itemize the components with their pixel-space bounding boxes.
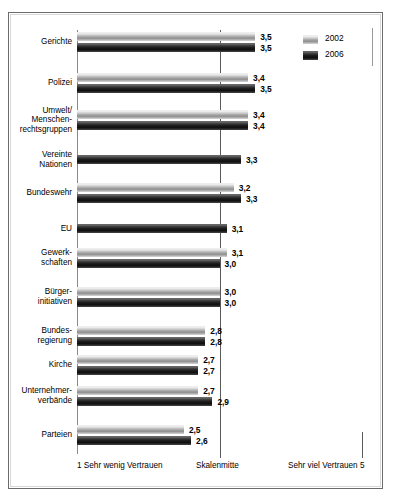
- category-label: Parteien: [0, 430, 72, 440]
- category-label: VereinteNationen: [0, 150, 72, 169]
- category-label-line: Bürger-: [0, 287, 72, 297]
- category-label-line: Polizei: [0, 78, 72, 88]
- category-label: Polizei: [0, 78, 72, 88]
- chart-row: Bundeswehr3,23,3: [0, 183, 398, 219]
- bar-value-label: 2,7: [203, 366, 215, 376]
- category-label-line: Bundes-: [0, 326, 72, 336]
- bar-value-label: 3,4: [253, 73, 265, 83]
- bar-2006: [77, 337, 205, 346]
- bar-value-label: 2,7: [203, 355, 215, 365]
- bar-value-label: 2,8: [210, 337, 222, 347]
- category-label-line: Unternehmer-: [0, 386, 72, 396]
- category-label: Umwelt/Menschen-rechtsgruppen: [0, 106, 72, 135]
- bar-2006: [77, 224, 227, 233]
- category-label-line: schaften: [0, 258, 72, 268]
- bar-value-label: 2,8: [210, 326, 222, 336]
- legend-item-2002[interactable]: 2002: [303, 32, 373, 48]
- bar-value-label: 2,7: [203, 386, 215, 396]
- category-label: Bundeswehr: [0, 188, 72, 198]
- bar-2006: [77, 155, 241, 164]
- category-label: Bürger-initiativen: [0, 287, 72, 306]
- bar-2002: [77, 32, 255, 41]
- bar-2006: [77, 43, 255, 52]
- bar-value-label: 3,3: [246, 155, 258, 165]
- category-label-line: rechtsgruppen: [0, 125, 72, 135]
- legend-item-2006[interactable]: 2006: [303, 48, 373, 64]
- bar-2002: [77, 355, 198, 364]
- bar-2002: [77, 425, 184, 434]
- category-label-line: Nationen: [0, 160, 72, 170]
- bar-value-label: 2,5: [189, 425, 201, 435]
- bar-value-label: 3,1: [232, 248, 244, 258]
- category-label: Kirche: [0, 360, 72, 370]
- chart-legend: 20022006: [303, 32, 373, 64]
- category-label: EU: [0, 224, 72, 234]
- category-label-line: Bundeswehr: [0, 188, 72, 198]
- bar-2006: [77, 259, 220, 268]
- bar-value-label: 3,2: [239, 183, 251, 193]
- bar-value-label: 3,5: [260, 43, 272, 53]
- bar-value-label: 3,0: [225, 298, 237, 308]
- chart-row: Parteien2,52,6: [0, 425, 398, 461]
- chart-row: Polizei3,43,5: [0, 73, 398, 109]
- bar-value-label: 3,0: [225, 287, 237, 297]
- bar-2006: [77, 194, 241, 203]
- bar-2002: [77, 73, 248, 82]
- chart-plot-area: Gerichte3,53,5Polizei3,43,5Umwelt/Mensch…: [0, 0, 398, 498]
- bar-2002: [77, 110, 248, 119]
- axis-label-low: 1 Sehr wenig Vertrauen: [77, 461, 163, 470]
- chart-row: Gewerk-schaften3,13,0: [0, 248, 398, 284]
- bar-value-label: 2,6: [196, 436, 208, 446]
- bar-2006: [77, 397, 212, 406]
- bar-2002: [77, 326, 205, 335]
- category-label-line: Parteien: [0, 430, 72, 440]
- category-label-line: regierung: [0, 336, 72, 346]
- bar-2002: [77, 183, 234, 192]
- bar-2006: [77, 84, 255, 93]
- category-label-line: Vereinte: [0, 150, 72, 160]
- category-label-line: Umwelt/: [0, 106, 72, 116]
- category-label: Gewerk-schaften: [0, 248, 72, 267]
- bar-2002: [77, 386, 198, 395]
- category-label-line: Gewerk-: [0, 248, 72, 258]
- category-label: Gerichte: [0, 37, 72, 47]
- category-label-line: Kirche: [0, 360, 72, 370]
- bar-value-label: 3,4: [253, 121, 265, 131]
- bar-value-label: 3,4: [253, 110, 265, 120]
- axis-label-high: Sehr viel Vertrauen 5: [288, 461, 364, 470]
- category-label-line: verbände: [0, 396, 72, 406]
- chart-row: Umwelt/Menschen-rechtsgruppen3,43,4: [0, 110, 398, 146]
- bar-2006: [77, 366, 198, 375]
- bar-value-label: 3,5: [260, 84, 272, 94]
- chart-row: Unternehmer-verbände2,72,9: [0, 386, 398, 422]
- bar-value-label: 3,1: [232, 224, 244, 234]
- legend-label: 2006: [325, 49, 344, 59]
- bar-2006: [77, 436, 191, 445]
- category-label-line: Gerichte: [0, 37, 72, 47]
- legend-swatch-icon: [303, 51, 318, 60]
- category-label: Unternehmer-verbände: [0, 386, 72, 405]
- axis-label-mid: Skalenmitte: [196, 461, 239, 470]
- category-label: Bundes-regierung: [0, 326, 72, 345]
- bar-value-label: 3,0: [225, 259, 237, 269]
- bar-2006: [77, 298, 220, 307]
- chart-row: Bürger-initiativen3,03,0: [0, 287, 398, 323]
- category-label-line: initiativen: [0, 297, 72, 307]
- legend-divider: [372, 28, 373, 66]
- bar-2006: [77, 121, 248, 130]
- bar-value-label: 3,5: [260, 32, 272, 42]
- legend-swatch-icon: [303, 35, 318, 44]
- bar-2002: [77, 248, 227, 257]
- bar-value-label: 2,9: [217, 397, 229, 407]
- category-label-line: EU: [0, 224, 72, 234]
- legend-label: 2002: [325, 33, 344, 43]
- bar-2002: [77, 287, 220, 296]
- category-label-line: Menschen-: [0, 115, 72, 125]
- bar-value-label: 3,3: [246, 194, 258, 204]
